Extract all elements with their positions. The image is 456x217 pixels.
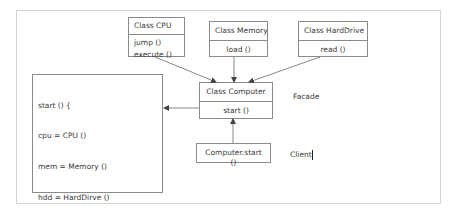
client-label: Client	[290, 150, 313, 160]
class-cpu-method-jump: jump ()	[129, 37, 184, 49]
class-computer-method-start: start ()	[200, 105, 272, 117]
text-cursor	[312, 150, 313, 160]
class-cpu-method-execute: execute ()	[129, 49, 184, 61]
class-memory-box: Class Memory load ()	[209, 21, 268, 57]
class-harddrive-method-read: read ()	[299, 44, 367, 56]
start-code-block: start () { cpu = CPU () mem = Memory () …	[32, 74, 163, 193]
facade-label: Facade	[293, 92, 319, 101]
code-line: start () {	[38, 101, 157, 111]
code-line: cpu = CPU ()	[38, 131, 157, 141]
code-line: mem = Memory ()	[38, 162, 157, 172]
class-computer-title: Class Computer	[200, 83, 272, 102]
class-cpu-box: Class CPU jump () execute ()	[128, 17, 185, 57]
code-line: hdd = HardDirve ()	[38, 193, 157, 203]
class-memory-method-load: load ()	[210, 44, 267, 56]
class-cpu-title: Class CPU	[129, 18, 184, 35]
client-call-box: Computer.start ()	[196, 143, 271, 163]
client-label-text: Client	[290, 150, 312, 159]
class-computer-box: Class Computer start ()	[199, 82, 273, 119]
class-harddrive-title: Class HardDrive	[299, 22, 367, 41]
class-memory-title: Class Memory	[210, 22, 267, 41]
class-harddrive-box: Class HardDrive read ()	[298, 21, 368, 57]
